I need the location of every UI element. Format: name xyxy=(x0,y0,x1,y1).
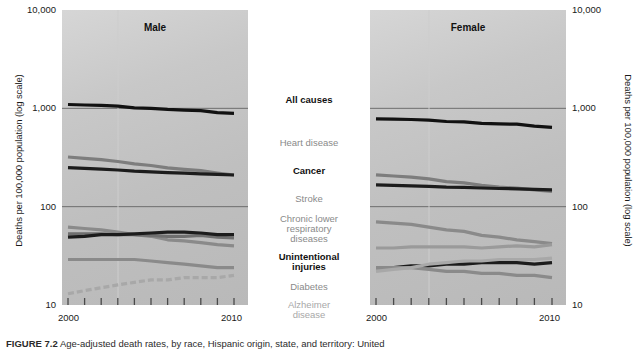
legend-item-line: diseases xyxy=(252,234,366,244)
series-line-cancer xyxy=(376,185,552,190)
panel-title-male: Male xyxy=(62,22,248,33)
legend-item-line: disease xyxy=(252,310,366,320)
series-line-diabetes xyxy=(68,260,234,268)
series-line-alzheimer-disease xyxy=(68,275,234,293)
legend: All causesHeart diseaseCancerStrokeChron… xyxy=(252,10,366,305)
legend-item-line: Diabetes xyxy=(252,282,366,292)
figure-caption: FIGURE 7.2 Age-adjusted death rates, by … xyxy=(6,338,624,349)
plot-area-female xyxy=(370,10,566,305)
y-tick-label-right-3: 10 xyxy=(572,299,626,310)
y-axis-title-right: Deaths per 100,000 population (log scale… xyxy=(623,61,634,261)
legend-item-line: Cancer xyxy=(252,166,366,176)
y-tick-label-left-0: 10,000 xyxy=(4,4,56,15)
y-axis-title-left: Deaths per 100,000 population (log scale… xyxy=(13,61,24,261)
y-tick-label-left-1: 1,000 xyxy=(4,102,56,113)
legend-item-line: All causes xyxy=(252,95,366,105)
x-tick-label-male-start: 2000 xyxy=(58,312,79,323)
figure-caption-label: FIGURE 7.2 xyxy=(6,338,58,349)
legend-item-diabetes: Diabetes xyxy=(252,282,366,292)
panel-title-female: Female xyxy=(370,22,566,33)
y-tick-label-right-2: 100 xyxy=(572,201,626,212)
legend-item-chronic-lower-respiratory-diseases: Chronic lowerrespiratorydiseases xyxy=(252,214,366,244)
series-line-all-causes xyxy=(376,119,552,128)
legend-item-unintentional-injuries: Unintentionalinjuries xyxy=(252,252,366,272)
y-tick-label-right-1: 1,000 xyxy=(572,102,626,113)
legend-item-line: Stroke xyxy=(252,194,366,204)
plot-area-male xyxy=(62,10,248,305)
series-line-stroke xyxy=(376,222,552,244)
panel-male: Male xyxy=(62,10,248,305)
legend-item-alzheimer-disease: Alzheimerdisease xyxy=(252,300,366,320)
legend-item-heart-disease: Heart disease xyxy=(252,138,366,148)
series-line-chronic-lower-respiratory-diseases xyxy=(376,245,552,248)
legend-item-line: injuries xyxy=(252,262,366,272)
legend-item-line: Heart disease xyxy=(252,138,366,148)
x-tick-label-female-start: 2000 xyxy=(366,312,387,323)
y-tick-label-left-2: 100 xyxy=(4,201,56,212)
x-tick-label-female-end: 2010 xyxy=(539,312,560,323)
y-tick-label-left-3: 10 xyxy=(4,299,56,310)
legend-item-all-causes: All causes xyxy=(252,95,366,105)
y-tick-label-right-0: 10,000 xyxy=(572,4,626,15)
series-line-all-causes xyxy=(68,105,234,114)
panel-female: Female xyxy=(370,10,566,305)
x-tick-label-male-end: 2010 xyxy=(221,312,242,323)
figure-caption-text: Age-adjusted death rates, by race, Hispa… xyxy=(60,338,385,349)
legend-item-cancer: Cancer xyxy=(252,166,366,176)
legend-item-stroke: Stroke xyxy=(252,194,366,204)
